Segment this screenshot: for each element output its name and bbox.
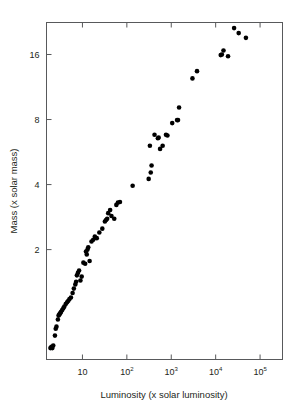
plot-canvas: 10102103104105 24816 Luminosity (x solar… — [0, 0, 296, 414]
data-point — [100, 226, 105, 231]
y-tick-label: 16 — [29, 50, 39, 60]
data-point — [156, 135, 161, 140]
data-point — [51, 343, 56, 348]
x-axis-ticks: 10102103104105 — [77, 23, 267, 377]
data-point — [148, 143, 153, 148]
data-point — [70, 291, 75, 296]
data-point — [236, 31, 241, 36]
y-axis-title: Mass (x solar mass) — [8, 149, 19, 234]
data-point — [160, 143, 165, 148]
data-point — [149, 163, 154, 168]
data-point — [97, 230, 102, 235]
data-point — [130, 183, 135, 188]
data-point — [108, 208, 113, 213]
data-point — [165, 133, 170, 138]
plot-frame — [47, 23, 283, 360]
data-point — [105, 216, 110, 221]
x-tick-label: 10 — [77, 367, 87, 377]
data-point — [146, 177, 151, 182]
data-point — [177, 105, 182, 110]
data-point — [72, 286, 77, 291]
data-point — [53, 333, 58, 338]
plot-frame-rect — [47, 23, 283, 360]
data-point — [220, 52, 225, 57]
data-point — [86, 245, 91, 250]
data-point — [226, 54, 231, 59]
data-point — [118, 200, 123, 205]
data-point — [190, 76, 195, 81]
data-point — [176, 118, 181, 123]
data-point — [148, 170, 153, 175]
y-tick-label: 8 — [34, 115, 39, 125]
data-point — [87, 259, 92, 264]
data-point — [54, 324, 59, 329]
x-tick-label: 103 — [165, 366, 179, 377]
data-point — [232, 26, 237, 31]
data-point — [112, 216, 117, 221]
data-point — [94, 236, 99, 241]
data-point — [170, 121, 175, 126]
data-point — [83, 261, 88, 266]
data-point — [195, 69, 200, 74]
x-axis-title: Luminosity (x solar luminosity) — [100, 389, 227, 400]
data-point — [152, 132, 157, 137]
y-tick-label: 2 — [34, 245, 39, 255]
y-tick-label: 4 — [34, 180, 39, 190]
data-point — [244, 36, 249, 41]
data-point — [77, 268, 82, 273]
scatter-plot-figure: 10102103104105 24816 Luminosity (x solar… — [0, 0, 296, 414]
x-tick-label: 102 — [120, 366, 134, 377]
x-tick-label: 104 — [209, 366, 223, 377]
data-point — [56, 317, 61, 322]
y-axis-ticks: 24816 — [29, 50, 51, 255]
x-tick-label: 105 — [253, 366, 267, 377]
data-point — [74, 279, 79, 284]
data-points — [48, 26, 248, 351]
data-point — [84, 252, 89, 257]
data-point — [69, 295, 74, 300]
data-point — [221, 48, 226, 53]
data-point — [79, 274, 84, 279]
